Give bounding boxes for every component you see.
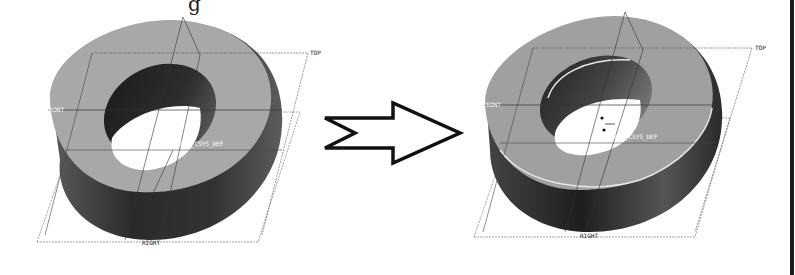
label-top: TOP: [755, 44, 766, 51]
label-front: FRONT: [483, 101, 501, 108]
after-model: TOP FRONT PRT_CSYS_DEF RIGHT: [474, 12, 766, 239]
label-right: RIGHT: [580, 232, 598, 239]
label-csys: PRT_CSYS_DEF: [180, 140, 224, 148]
label-front: FRONT: [46, 106, 64, 113]
right-arrow-icon: [325, 103, 460, 163]
figure: TOP FRONT PRT_CSYS_DEF RIGHT TOP FRONT P…: [0, 0, 795, 275]
label-csys: PRT_CSYS_DEF: [614, 133, 658, 141]
label-top: TOP: [310, 49, 321, 56]
before-model: TOP FRONT PRT_CSYS_DEF RIGHT: [37, 17, 321, 246]
label-right: RIGHT: [142, 239, 160, 246]
page-border: [790, 0, 794, 275]
